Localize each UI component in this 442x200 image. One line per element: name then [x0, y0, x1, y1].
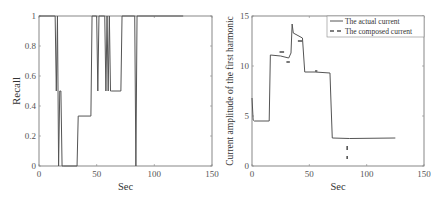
y-tick-label: 0: [32, 161, 37, 171]
y-tick-label: 5: [245, 111, 250, 121]
x-axis-label: Sec: [330, 181, 346, 192]
x-tick-label: 100: [360, 169, 374, 179]
y-tick-label: 10: [240, 61, 250, 71]
legend-entry-label: The actual current: [345, 17, 400, 26]
y-tick-label: 0.4: [25, 101, 37, 111]
x-tick-label: 50: [305, 169, 315, 179]
x-tick-label: 150: [205, 169, 219, 179]
legend-entry-label: The composed current: [345, 27, 413, 36]
y-tick-label: 0.6: [25, 71, 37, 81]
current-amplitude-plot: 050100150051015SecCurrent amplitude of t…: [225, 11, 431, 192]
y-tick-label: 1: [32, 11, 37, 21]
y-tick-label: 0.2: [25, 131, 36, 141]
figure: 05010015000.20.40.60.81SecRecall 0501001…: [0, 0, 442, 200]
plot-frame: [39, 16, 212, 166]
x-tick-label: 0: [250, 169, 255, 179]
y-axis-label: Current amplitude of the first harmonic: [225, 16, 235, 166]
plot-frame: [252, 16, 424, 166]
x-tick-label: 150: [417, 169, 431, 179]
recall-plot: 05010015000.20.40.60.81SecRecall: [10, 11, 219, 192]
y-axis-label: Recall: [10, 77, 22, 105]
y-tick-label: 15: [240, 11, 250, 21]
x-tick-label: 100: [148, 169, 162, 179]
y-tick-label: 0: [245, 161, 250, 171]
x-tick-label: 50: [92, 169, 102, 179]
x-axis-label: Sec: [118, 181, 134, 192]
y-tick-label: 0.8: [25, 41, 37, 51]
x-tick-label: 0: [37, 169, 42, 179]
